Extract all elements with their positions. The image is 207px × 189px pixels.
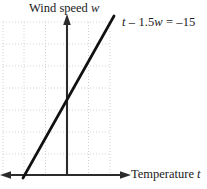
y-axis-label: Wind speed w xyxy=(29,2,99,15)
x-axis-label-text: Temperature xyxy=(131,167,197,181)
x-axis-arrowhead-right-icon xyxy=(120,171,131,179)
data-line xyxy=(23,16,114,178)
y-axis-label-text: Wind speed xyxy=(29,1,91,15)
y-axis-arrowhead-icon xyxy=(63,14,71,25)
grid-lines-vertical xyxy=(3,22,110,175)
x-axis xyxy=(0,171,131,179)
equation-tail: = –15 xyxy=(163,15,196,29)
x-axis-arrowhead-left-icon xyxy=(0,171,11,179)
equation-variable-w: w xyxy=(154,15,162,29)
y-axis-variable: w xyxy=(91,1,99,15)
coordinate-graph: Wind speed w Temperature t t – 1.5w = –1… xyxy=(0,0,207,189)
equation-label: t – 1.5w = –15 xyxy=(122,16,195,29)
x-axis-variable: t xyxy=(197,167,200,181)
grid-lines xyxy=(3,22,110,175)
grid-lines-horizontal xyxy=(3,22,110,154)
equation-operator: – 1.5 xyxy=(126,15,155,29)
x-axis-label: Temperature t xyxy=(131,168,201,181)
